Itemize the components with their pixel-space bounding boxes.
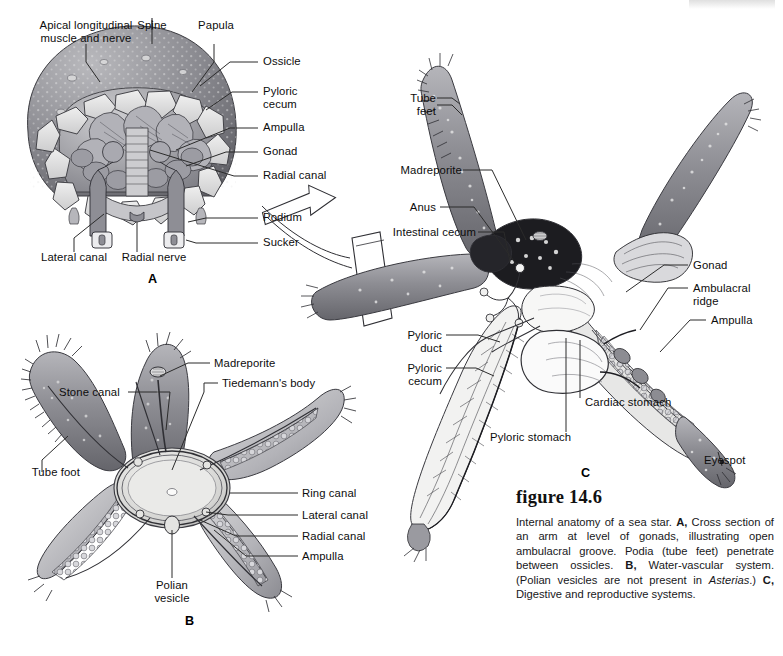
label-spine: Spine	[122, 19, 182, 32]
label-tube-feet: Tube feet	[384, 92, 436, 118]
label-papula: Papula	[186, 19, 246, 32]
label-pyloric-cecum-c: Pyloric cecum	[386, 362, 442, 388]
label-sucker: Sucker	[263, 236, 299, 249]
label-gonad: Gonad	[263, 145, 297, 158]
label-pyloric-duct: Pyloric duct	[386, 329, 442, 355]
panel-a-artwork	[28, 18, 238, 248]
label-ambulacral-ridge: Ambulacral ridge	[693, 282, 751, 308]
label-stone-canal: Stone canal	[59, 386, 120, 399]
panel-letter-b: B	[185, 614, 194, 628]
label-madreporite-c: Madreporite	[378, 164, 462, 177]
label-ampulla: Ampulla	[263, 121, 305, 134]
label-radial-canal: Radial canal	[263, 169, 326, 182]
label-eyespot: Eyespot	[704, 454, 746, 467]
panel-letter-a: A	[148, 272, 157, 286]
label-polian-vesicle: Polian vesicle	[132, 579, 212, 605]
label-ring-canal: Ring canal	[302, 487, 356, 500]
label-anus: Anus	[378, 201, 436, 214]
figure-caption-block: figure 14.6 Internal anatomy of a sea st…	[516, 487, 774, 601]
figure-caption-text: Internal anatomy of a sea star. A, Cross…	[516, 515, 774, 601]
label-podium: Podium	[263, 211, 302, 224]
label-intestinal-cecum: Intestinal cecum	[366, 226, 476, 239]
panel-c-artwork	[301, 53, 761, 562]
label-tiedemanns-body: Tiedemann's body	[222, 377, 315, 390]
figure-number: figure 14.6	[516, 487, 774, 508]
label-radial-canal-b: Radial canal	[302, 530, 365, 543]
label-ossicle: Ossicle	[263, 55, 301, 68]
label-cardiac-stomach: Cardiac stomach	[585, 396, 671, 409]
label-gonad-c: Gonad	[693, 259, 727, 272]
panel-letter-c: C	[581, 466, 590, 480]
label-tube-foot: Tube foot	[0, 466, 80, 479]
label-lateral-canal-b: Lateral canal	[302, 509, 368, 522]
label-radial-nerve: Radial nerve	[100, 251, 208, 264]
label-ampulla-c: Ampulla	[711, 314, 753, 327]
label-pyloric-cecum: Pyloric cecum	[263, 85, 298, 111]
label-ampulla-b: Ampulla	[302, 550, 344, 563]
figure-14-6: Apical longitudinal muscle and nerve Spi…	[0, 0, 783, 656]
label-pyloric-stomach: Pyloric stomach	[490, 431, 571, 444]
label-madreporite: Madreporite	[214, 357, 275, 370]
